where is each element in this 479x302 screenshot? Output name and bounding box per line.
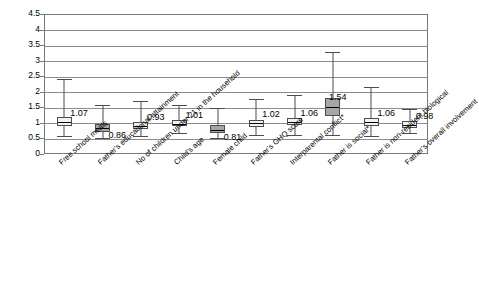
- upper-whisker-cap: [249, 99, 264, 100]
- median-line: [326, 107, 339, 108]
- y-axis-tickmark: [40, 76, 44, 77]
- upper-whisker: [256, 99, 257, 120]
- y-axis-tickmark: [40, 61, 44, 62]
- upper-whisker-cap: [133, 101, 148, 102]
- lower-whisker-cap: [249, 135, 264, 136]
- upper-whisker-cap: [57, 79, 72, 80]
- value-label: 1.54: [329, 92, 347, 102]
- lower-whisker: [64, 126, 65, 136]
- y-axis-tick-label: 2: [14, 86, 40, 96]
- upper-whisker-cap: [287, 95, 302, 96]
- y-axis-tick-label: 4: [14, 24, 40, 34]
- y-axis-tick-label: 0.5: [14, 132, 40, 142]
- upper-whisker-cap: [325, 52, 340, 53]
- upper-whisker-cap: [364, 87, 379, 88]
- value-label: 1.06: [377, 108, 395, 118]
- y-axis-tick-label: 3.5: [14, 39, 40, 49]
- box: [249, 120, 264, 127]
- value-label: 1.02: [262, 109, 280, 119]
- y-axis-tickmark: [40, 154, 44, 155]
- y-axis-tickmark: [40, 107, 44, 108]
- upper-whisker: [217, 108, 218, 126]
- box-whisker-group: [45, 15, 83, 155]
- lower-whisker: [256, 127, 257, 136]
- upper-whisker: [332, 52, 333, 97]
- y-axis-tickmark: [40, 92, 44, 93]
- median-line: [211, 130, 224, 131]
- upper-whisker-cap: [210, 108, 225, 109]
- y-axis-tick-label: 2.5: [14, 70, 40, 80]
- y-axis-tick-label: 3: [14, 55, 40, 65]
- y-axis-tick-label: 0: [14, 148, 40, 158]
- value-label: 1.07: [70, 108, 88, 118]
- y-axis-tickmark: [40, 30, 44, 31]
- lower-whisker-cap: [57, 136, 72, 137]
- value-label: 1.06: [301, 108, 319, 118]
- value-label: 0.98: [416, 111, 434, 121]
- upper-whisker: [64, 79, 65, 117]
- upper-whisker: [294, 95, 295, 119]
- y-axis-tick-label: 4.5: [14, 8, 40, 18]
- y-axis-tick-label: 1: [14, 117, 40, 127]
- y-axis-tickmark: [40, 45, 44, 46]
- upper-whisker-cap: [95, 105, 110, 106]
- upper-whisker-cap: [172, 105, 187, 106]
- median-line: [58, 122, 71, 123]
- value-label: 1.01: [185, 110, 203, 120]
- median-line: [250, 123, 263, 124]
- box: [57, 117, 72, 126]
- y-axis-tickmark: [40, 138, 44, 139]
- upper-whisker: [371, 87, 372, 118]
- y-axis-tickmark: [40, 123, 44, 124]
- y-axis-tickmark: [40, 14, 44, 15]
- y-axis-tick-label: 1.5: [14, 101, 40, 111]
- median-line: [365, 122, 378, 123]
- value-label: 0.93: [147, 112, 165, 122]
